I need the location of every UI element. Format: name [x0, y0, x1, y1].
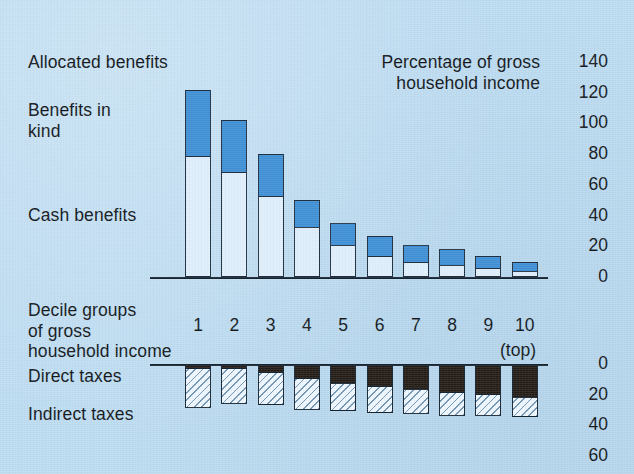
taxes-bar-decile-10 — [512, 364, 538, 417]
benefits-bar-decile-4 — [294, 200, 320, 277]
taxes-bar-decile-3 — [258, 364, 284, 405]
indirect-taxes-segment — [512, 396, 538, 417]
benefits-bar-decile-1 — [185, 90, 211, 277]
direct-taxes-segment — [367, 364, 393, 387]
direct-taxes-segment — [475, 364, 501, 395]
benefits-bar-decile-9 — [475, 256, 501, 278]
indirect-taxes-segment — [294, 378, 320, 410]
benefits-bar-decile-10 — [512, 262, 538, 277]
cash-benefits-segment — [221, 171, 247, 277]
taxes-bar-decile-5 — [330, 364, 356, 411]
benefits-bar-decile-2 — [221, 120, 247, 277]
benefits-in-kind-segment — [475, 256, 501, 270]
legend-label-direct-taxes: Direct taxes — [28, 366, 122, 387]
allocated-benefits-panel: Allocated benefits Benefits in kind Cash… — [0, 0, 634, 300]
direct-taxes-segment — [403, 364, 429, 390]
indirect-taxes-segment — [475, 393, 501, 416]
benefits-bar-decile-8 — [439, 249, 465, 277]
benefits-in-kind-segment — [185, 90, 211, 158]
upper-y-tick-120: 120 — [562, 82, 608, 103]
benefits-in-kind-segment — [330, 223, 356, 246]
upper-baseline — [150, 277, 548, 279]
benefits-in-kind-segment — [439, 249, 465, 266]
upper-panel-title: Percentage of gross household income — [340, 52, 540, 93]
benefits-bar-decile-3 — [258, 154, 284, 277]
legend-label-allocated-benefits: Allocated benefits — [28, 52, 168, 73]
legend-label-cash-benefits: Cash benefits — [28, 205, 136, 226]
lower-baseline — [150, 364, 548, 366]
direct-taxes-segment — [439, 364, 465, 393]
cash-benefits-segment — [185, 156, 211, 277]
indirect-taxes-segment — [403, 388, 429, 414]
taxes-bar-decile-7 — [403, 364, 429, 414]
upper-y-tick-140: 140 — [562, 51, 608, 72]
taxes-panel: Direct taxes Indirect taxes 0204060 — [0, 300, 634, 474]
indirect-taxes-segment — [330, 382, 356, 411]
upper-y-tick-100: 100 — [562, 112, 608, 133]
upper-y-tick-80: 80 — [562, 143, 608, 164]
direct-taxes-segment — [330, 364, 356, 384]
benefits-in-kind-segment — [258, 154, 284, 197]
legend-label-indirect-taxes: Indirect taxes — [28, 404, 133, 425]
taxes-bar-decile-4 — [294, 364, 320, 410]
benefits-bar-decile-6 — [367, 236, 393, 277]
lower-y-tick-40: 40 — [562, 414, 608, 435]
benefits-in-kind-segment — [367, 236, 393, 258]
benefits-bar-decile-7 — [403, 245, 429, 277]
benefits-in-kind-segment — [221, 120, 247, 172]
cash-benefits-segment — [439, 265, 465, 277]
indirect-taxes-segment — [221, 367, 247, 404]
taxes-bar-decile-2 — [221, 364, 247, 404]
cash-benefits-segment — [330, 245, 356, 277]
cash-benefits-segment — [258, 196, 284, 277]
indirect-taxes-segment — [185, 367, 211, 408]
upper-y-tick-40: 40 — [562, 205, 608, 226]
direct-taxes-segment — [512, 364, 538, 398]
cash-benefits-segment — [403, 262, 429, 277]
benefits-in-kind-segment — [403, 245, 429, 263]
lower-y-tick-60: 60 — [562, 445, 608, 466]
cash-benefits-segment — [367, 255, 393, 277]
direct-taxes-segment — [294, 364, 320, 379]
legend-label-benefits-in-kind: Benefits in kind — [28, 100, 111, 141]
taxes-bar-decile-8 — [439, 364, 465, 416]
upper-y-tick-60: 60 — [562, 174, 608, 195]
lower-y-tick-0: 0 — [562, 353, 608, 374]
benefits-bar-decile-5 — [330, 223, 356, 277]
upper-y-tick-20: 20 — [562, 235, 608, 256]
cash-benefits-segment — [294, 226, 320, 277]
upper-y-tick-0: 0 — [562, 266, 608, 287]
chart-canvas: Allocated benefits Benefits in kind Cash… — [0, 0, 634, 474]
taxes-bar-decile-1 — [185, 364, 211, 408]
indirect-taxes-segment — [258, 372, 284, 406]
taxes-bar-decile-9 — [475, 364, 501, 416]
lower-y-tick-20: 20 — [562, 384, 608, 405]
indirect-taxes-segment — [367, 385, 393, 412]
benefits-in-kind-segment — [512, 262, 538, 273]
taxes-bar-decile-6 — [367, 364, 393, 413]
benefits-in-kind-segment — [294, 200, 320, 228]
indirect-taxes-segment — [439, 391, 465, 415]
